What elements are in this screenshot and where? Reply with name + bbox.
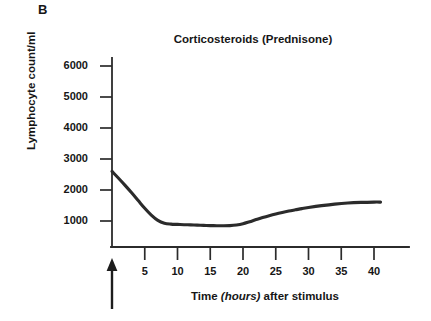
stimulus-arrow-icon xyxy=(107,258,118,309)
y-tick-mark-group xyxy=(100,66,112,221)
plot-area xyxy=(0,0,431,321)
x-tick-mark-group xyxy=(145,247,374,260)
data-line-lymphocyte-count xyxy=(112,171,381,225)
figure-root: B Corticosteroids (Prednisone) Lymphocyt… xyxy=(0,0,431,321)
data-series-group xyxy=(112,171,381,225)
